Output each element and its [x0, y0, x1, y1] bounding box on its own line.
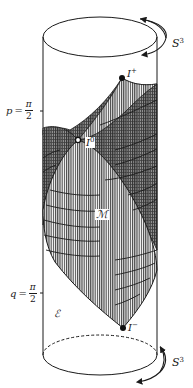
top-ellipse: [43, 17, 157, 57]
region-e-label: ℰ: [54, 309, 60, 319]
bottom-ellipse-front: [43, 355, 157, 375]
p-equals-pi-over-2: p = π2: [6, 100, 33, 121]
i-plus-label: I+: [127, 68, 137, 79]
s3-top-label: S3: [172, 38, 184, 49]
bottom-ellipse-back: [43, 335, 157, 355]
i-plus-point: [119, 75, 125, 81]
i-zero-label: I0: [85, 137, 95, 148]
s3-bottom-label: S3: [172, 357, 184, 368]
s3-bottom-arrow: [138, 347, 166, 382]
i-minus-point: [120, 325, 126, 331]
cylinder-diagram: [0, 0, 193, 388]
i-zero-point: [75, 137, 80, 142]
i-minus-label: I−: [128, 322, 138, 333]
region-m-label: ℳ: [95, 209, 109, 220]
q-equals-pi-over-2: q = π2: [10, 283, 37, 304]
